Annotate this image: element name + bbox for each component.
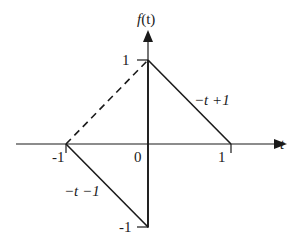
y-axis-label: f(t) <box>137 11 155 28</box>
segment-dashed-reference <box>66 60 148 144</box>
tick-label-x-pos-one: 1 <box>218 149 226 165</box>
tick-label-y-pos-one: 1 <box>122 52 130 68</box>
tick-label-y-neg-one: -1 <box>119 219 132 235</box>
signal-diagram: f(t) t 1 -1 -1 0 1 −t +1 −t −1 <box>0 0 301 251</box>
tick-label-x-zero: 0 <box>134 149 142 165</box>
tick-label-x-neg-one: -1 <box>52 149 65 165</box>
segment-label-right: −t +1 <box>194 92 230 108</box>
segment-label-left: −t −1 <box>64 183 100 199</box>
y-axis-arrow-icon <box>143 30 153 42</box>
